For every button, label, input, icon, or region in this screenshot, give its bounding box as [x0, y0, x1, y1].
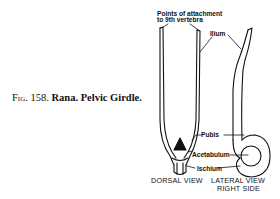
- leader-ischium-dorsal: [187, 166, 195, 168]
- lateral-acetabulum: [233, 135, 270, 177]
- label-ischium: Ischium: [197, 165, 222, 172]
- leader-attachment-right: [190, 24, 200, 31]
- dorsal-left-ilium: [160, 27, 176, 165]
- leader-ilium-lateral: [228, 35, 241, 49]
- label-dorsal-view: DORSAL VIEW: [151, 176, 203, 185]
- dorsal-dark-wedge: [174, 138, 186, 150]
- label-ilium: Ilium: [210, 30, 226, 37]
- label-acetabulum: Acetabulum: [192, 151, 230, 158]
- leader-ilium-dorsal: [200, 37, 212, 52]
- leader-attachment-left: [162, 24, 168, 28]
- dorsal-right-ilium: [184, 30, 200, 165]
- label-right-side: RIGHT SIDE: [217, 184, 260, 193]
- pelvic-girdle-diagram: Points of attachment to 9th vertebra Ili…: [0, 0, 280, 199]
- dorsal-symphysis: [172, 158, 188, 175]
- label-attachment-line2: to 9th vertebra: [157, 16, 203, 23]
- label-pubis: Pubis: [201, 131, 219, 138]
- lateral-ilium: [233, 28, 252, 140]
